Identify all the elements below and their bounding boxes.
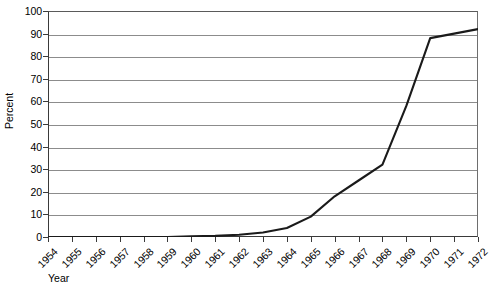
x-tick-mark (144, 237, 145, 242)
x-tick-mark (167, 237, 168, 242)
x-tick-mark (382, 237, 383, 242)
x-tick-mark (263, 237, 264, 242)
y-tick-label: 40 (31, 141, 42, 152)
y-tick-label: 20 (31, 187, 42, 198)
y-tick-label: 10 (31, 209, 42, 220)
x-tick-mark (191, 237, 192, 242)
x-tick-mark (239, 237, 240, 242)
x-tick-mark (215, 237, 216, 242)
y-tick-label: 70 (31, 74, 42, 85)
y-tick-label: 50 (31, 119, 42, 130)
y-tick-label: 0 (36, 232, 42, 243)
x-tick-mark (48, 237, 49, 242)
y-tick-label: 60 (31, 96, 42, 107)
x-tick-mark (311, 237, 312, 242)
line-chart: 0102030405060708090100 Percent Year 1954… (0, 0, 493, 297)
y-tick-label: 100 (25, 6, 42, 17)
x-tick-mark (335, 237, 336, 242)
data-series-line (48, 11, 478, 237)
x-tick-mark (359, 237, 360, 242)
x-tick-mark (406, 237, 407, 242)
x-tick-mark (120, 237, 121, 242)
x-tick-mark (478, 237, 479, 242)
x-tick-mark (72, 237, 73, 242)
x-tick-mark (96, 237, 97, 242)
y-tick-label: 80 (31, 51, 42, 62)
x-tick-mark (287, 237, 288, 242)
x-tick-mark (454, 237, 455, 242)
y-axis-title: Percent (3, 81, 15, 141)
y-tick-label: 90 (31, 28, 42, 39)
x-tick-mark (430, 237, 431, 242)
y-tick-label: 30 (31, 164, 42, 175)
